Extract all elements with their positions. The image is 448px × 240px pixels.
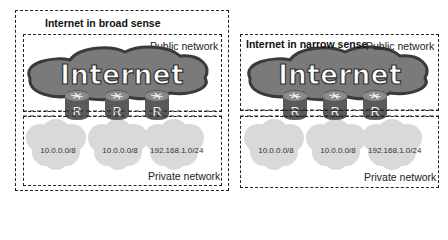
- broad-private-cloud-1: [26, 119, 86, 170]
- narrow-sense-title: Internet in narrow sense: [246, 38, 367, 50]
- narrow-private-net-3: 192.168.1.0/24: [368, 146, 418, 155]
- narrow-private-net-2: 10.0.0.0/8: [318, 146, 358, 155]
- broad-private-cloud-3: [144, 119, 204, 170]
- narrow-private-net-1: 10.0.0.0/8: [256, 146, 296, 155]
- broad-private-network-label: Private network: [148, 170, 220, 182]
- broad-private-net-3: 192.168.1.0/24: [150, 146, 200, 155]
- broad-private-net-2: 10.0.0.0/8: [100, 146, 140, 155]
- broad-private-net-1: 10.0.0.0/8: [38, 146, 78, 155]
- narrow-internet-label: Internet: [270, 60, 410, 90]
- narrow-private-network-label: Private network: [364, 171, 436, 183]
- broad-private-cloud-2: [88, 119, 148, 170]
- narrow-public-network-label: Public network: [366, 40, 434, 52]
- broad-internet-label: Internet: [52, 60, 192, 90]
